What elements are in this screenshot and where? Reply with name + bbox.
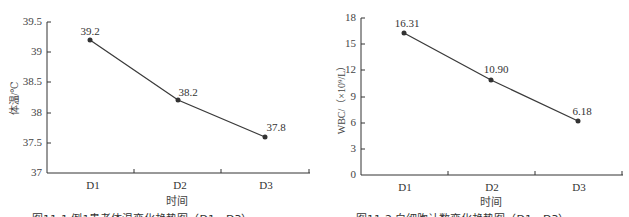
y-tick-label: 18 — [326, 12, 356, 23]
wbc-plot — [0, 0, 629, 217]
x-axis-title: 时间 — [471, 193, 511, 209]
x-category-label: D1 — [390, 182, 420, 193]
y-axis-title: WBC/（×10⁹/L） — [333, 48, 348, 148]
wbc-line — [404, 33, 578, 121]
figure-caption: 图11-2 白细胞计数变化趋势图（D1～D3） — [356, 210, 569, 217]
x-category-label: D3 — [564, 182, 594, 193]
y-ticks — [361, 18, 365, 149]
data-label-d2: 10.90 — [476, 64, 516, 75]
data-point-d1 — [402, 31, 407, 36]
data-label-d1: 16.31 — [387, 18, 427, 29]
data-point-d3 — [576, 119, 581, 124]
y-tick-label: 0 — [326, 169, 356, 180]
wbc-chart: 18 15 12 9 6 3 0 WBC/（×10⁹/L） 16.31 10.9… — [0, 0, 629, 217]
x-category-label: D2 — [477, 182, 507, 193]
data-label-d3: 6.18 — [562, 106, 602, 117]
x-ticks — [448, 171, 622, 175]
data-point-d2 — [489, 78, 494, 83]
